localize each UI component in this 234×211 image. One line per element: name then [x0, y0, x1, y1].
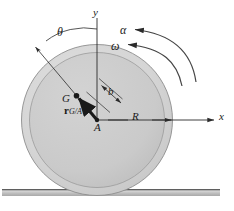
alpha-label: α	[120, 24, 126, 36]
radius-label: R	[132, 111, 139, 122]
figure-canvas: y θ α ω b G A R x rG/A	[0, 0, 234, 211]
omega-label: ω	[111, 40, 119, 52]
rga-vector-label-subscript: G/A	[69, 107, 82, 116]
contact-point-label: A	[94, 122, 101, 133]
x-axis-label: x	[219, 111, 224, 122]
y-axis-label: y	[93, 7, 98, 18]
center-of-mass-label: G	[62, 93, 70, 104]
rga-vector-label: rG/A	[64, 105, 82, 116]
offset-b-label: b	[108, 86, 114, 97]
theta-angle-label: θ	[57, 26, 63, 38]
theta-arc	[46, 28, 97, 41]
diagram-svg	[0, 0, 234, 211]
